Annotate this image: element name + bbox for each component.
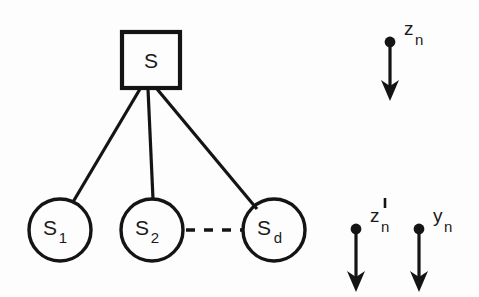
sd-label-subscript: d — [274, 229, 282, 246]
node-s2: S 2 — [121, 199, 183, 261]
node-root: S — [122, 32, 180, 88]
diagram-canvas: S S 1 S 2 S d z n — [0, 0, 479, 297]
s2-label-base: S — [135, 216, 149, 239]
zn-label-base: z — [404, 18, 414, 39]
s1-label-base: S — [43, 216, 57, 239]
edge-group — [73, 89, 257, 209]
zprimen-label-base: z — [370, 205, 380, 226]
yn-label-base: y — [433, 205, 443, 226]
edge-root-to-s2 — [148, 89, 153, 199]
root-box-label: S — [144, 49, 158, 72]
s1-label-subscript: 1 — [59, 229, 67, 246]
node-sd: S d — [243, 199, 305, 261]
signal-arrow-zn: z n — [381, 18, 423, 101]
s2-label-subscript: 2 — [151, 229, 159, 246]
edge-root-to-s1 — [73, 89, 140, 202]
zprimen-label-subscript: n — [381, 218, 389, 235]
sd-label-base: S — [257, 216, 271, 239]
zn-label-subscript: n — [415, 31, 423, 48]
yn-label-subscript: n — [444, 218, 452, 235]
signal-arrow-yn: y n — [410, 205, 452, 292]
node-s1: S 1 — [29, 199, 91, 261]
signal-arrow-zprime-n: z n — [347, 198, 389, 292]
edge-root-to-sd — [157, 89, 257, 209]
diagram-svg: S S 1 S 2 S d z n — [0, 0, 479, 297]
